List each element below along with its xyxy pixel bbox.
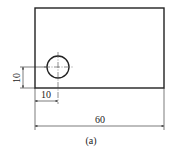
- plate-outline: [35, 8, 164, 88]
- hole-y-offset-label: 10: [11, 73, 22, 83]
- technical-drawing: 10 10 60 (a): [0, 0, 176, 157]
- plate-width-label: 60: [95, 114, 105, 125]
- figure-caption: (a): [85, 135, 96, 147]
- hole-x-offset-label: 10: [41, 89, 51, 100]
